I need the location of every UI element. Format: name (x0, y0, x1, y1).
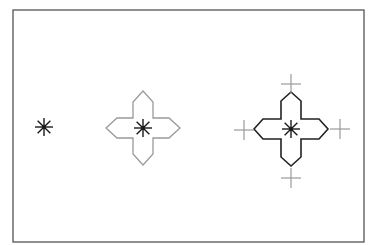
diagram-canvas (0, 0, 374, 245)
star-center-dot (289, 127, 293, 131)
star-point-icon (134, 119, 152, 137)
star-center-dot (42, 125, 46, 129)
plus-marker-left-icon (234, 120, 254, 140)
plus-marker-bottom-icon (281, 168, 301, 188)
plus-marker-top-icon (281, 74, 301, 94)
figure-black-cross-with-markers (234, 74, 350, 188)
star-center-dot (141, 126, 145, 130)
figure-star-only (35, 118, 53, 136)
plus-marker-right-icon (330, 119, 350, 139)
diagram-frame (13, 10, 364, 242)
star-point-icon (282, 120, 300, 138)
star-point-icon (35, 118, 53, 136)
figure-gray-cross (106, 91, 180, 165)
figures-group (35, 74, 350, 188)
